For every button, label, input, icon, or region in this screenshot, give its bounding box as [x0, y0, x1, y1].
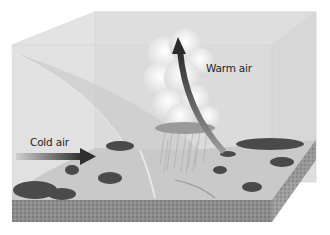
soil-front [12, 200, 272, 222]
cold-air-label: Cold air [30, 136, 69, 148]
diagram-canvas [0, 0, 330, 235]
cold-front-diagram: Cold air Warm air [0, 0, 330, 235]
warm-air-label: Warm air [206, 62, 252, 74]
